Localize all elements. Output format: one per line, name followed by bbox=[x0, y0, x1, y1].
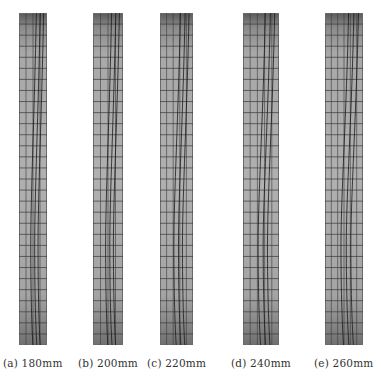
panel-label-a: (a) 180mm bbox=[3, 357, 63, 369]
column-mesh-a bbox=[19, 13, 47, 345]
column-mesh-d bbox=[243, 13, 279, 345]
panel-label-e: (e) 260mm bbox=[314, 357, 374, 369]
column-mesh-c bbox=[160, 13, 193, 345]
panel-label-c: (c) 220mm bbox=[147, 357, 206, 369]
column-mesh-e bbox=[325, 13, 363, 345]
column-mesh-b bbox=[93, 13, 123, 345]
panel-label-d: (d) 240mm bbox=[231, 357, 291, 369]
panel-label-b: (b) 200mm bbox=[78, 357, 138, 369]
